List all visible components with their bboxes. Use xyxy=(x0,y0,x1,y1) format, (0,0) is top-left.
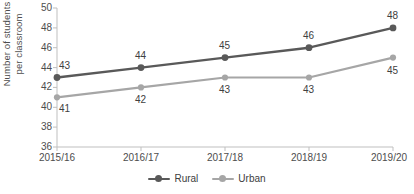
x-tick-label-2015-16: 2015/16 xyxy=(27,152,87,163)
x-tick-label-2018-19: 2018/19 xyxy=(279,152,339,163)
legend-label-rural: Rural xyxy=(174,173,198,184)
y-tick-label-42: 42 xyxy=(30,82,52,92)
data-label-rural-0: 43 xyxy=(59,61,70,71)
data-label-rural-3: 46 xyxy=(303,31,314,41)
y-tick-label-38: 38 xyxy=(30,122,52,132)
data-label-rural-1: 44 xyxy=(135,51,146,61)
legend-marker-urban-icon xyxy=(212,174,234,184)
data-label-urban-0: 41 xyxy=(59,104,70,114)
y-tick-label-48: 48 xyxy=(30,23,52,33)
chart-legend: Rural Urban xyxy=(0,173,414,184)
data-label-urban-3: 43 xyxy=(303,85,314,95)
data-label-urban-2: 43 xyxy=(219,85,230,95)
x-tick-label-2016-17: 2016/17 xyxy=(111,152,171,163)
legend-marker-rural-icon xyxy=(148,174,170,184)
y-tick-label-44: 44 xyxy=(30,63,52,73)
legend-entry-urban[interactable]: Urban xyxy=(212,173,265,184)
legend-entry-rural[interactable]: Rural xyxy=(148,173,198,184)
data-label-urban-4: 45 xyxy=(387,66,398,76)
line-chart: Number of students per classroom xyxy=(0,0,414,194)
data-label-urban-1: 42 xyxy=(135,95,146,105)
data-label-rural-2: 45 xyxy=(219,41,230,51)
legend-label-urban: Urban xyxy=(238,173,265,184)
y-tick-label-36: 36 xyxy=(30,142,52,152)
x-tick-marks xyxy=(57,147,393,151)
x-tick-label-2017-18: 2017/18 xyxy=(195,152,255,163)
data-label-rural-4: 48 xyxy=(387,11,398,21)
plot-area xyxy=(0,0,414,194)
x-tick-label-2019-20: 2019/20 xyxy=(359,152,414,163)
y-tick-label-50: 50 xyxy=(30,3,52,13)
y-tick-label-40: 40 xyxy=(30,102,52,112)
y-tick-label-46: 46 xyxy=(30,43,52,53)
